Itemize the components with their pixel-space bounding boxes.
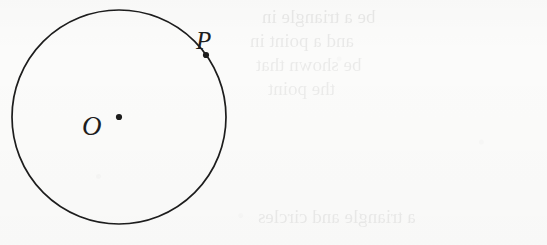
center-point-dot [116, 114, 122, 120]
scanned-figure-page: be a triangle in and a point in be shown… [0, 0, 547, 245]
point-p-label: P [196, 28, 211, 53]
center-point-label: O [82, 113, 102, 140]
